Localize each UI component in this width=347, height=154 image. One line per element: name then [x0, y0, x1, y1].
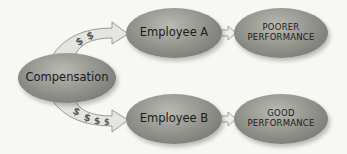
- poorer-line2: PERFORMANCE: [248, 33, 315, 43]
- dollar-icon: $: [104, 118, 110, 127]
- employee-b-label: Employee B: [140, 112, 209, 125]
- compensation-label: Compensation: [26, 71, 109, 84]
- node-employee-a: Employee A: [126, 8, 222, 58]
- node-poorer-performance: POORER PERFORMANCE: [234, 8, 328, 58]
- node-compensation: Compensation: [18, 53, 116, 103]
- node-employee-b: Employee B: [126, 94, 222, 144]
- dollar-icon: $: [94, 116, 100, 126]
- employee-a-label: Employee A: [140, 26, 208, 39]
- good-line2: PERFORMANCE: [248, 119, 315, 129]
- node-good-performance: GOOD PERFORMANCE: [234, 94, 328, 144]
